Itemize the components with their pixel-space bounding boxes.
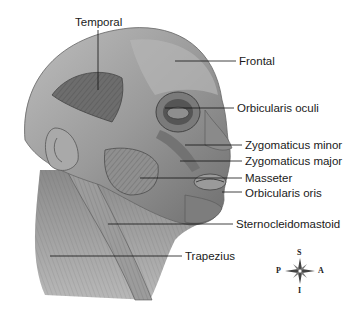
label-orbicularis-oris: Orbicularis oris xyxy=(245,187,322,199)
compass-rose xyxy=(285,258,315,284)
label-zygomaticus-major: Zygomaticus major xyxy=(245,155,342,167)
label-frontal: Frontal xyxy=(239,55,275,67)
orbicularis-oris-muscle xyxy=(194,174,226,190)
label-masseter: Masseter xyxy=(245,172,292,184)
compass-anterior: A xyxy=(318,266,324,275)
label-trapezius: Trapezius xyxy=(185,250,235,262)
label-temporal: Temporal xyxy=(75,16,122,28)
compass-inferior: I xyxy=(298,286,301,295)
label-zygomaticus-minor: Zygomaticus minor xyxy=(245,139,342,151)
compass-posterior: P xyxy=(276,266,281,275)
label-sternocleidomastoid: Sternocleidomastoid xyxy=(236,218,340,230)
anatomy-figure: Temporal Frontal Orbicularis oculi Zygom… xyxy=(0,0,350,310)
compass-superior: S xyxy=(297,248,301,257)
label-orbicularis-oculi: Orbicularis oculi xyxy=(237,102,319,114)
